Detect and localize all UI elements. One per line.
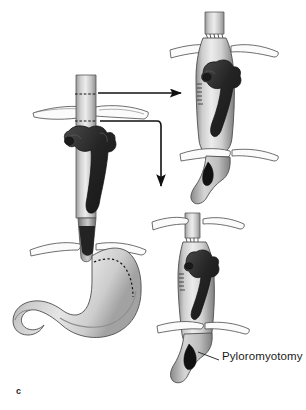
figure-background xyxy=(0,0,306,410)
vessel-stump-left xyxy=(64,137,73,145)
lower-esophageal-stump xyxy=(185,213,200,238)
pedicle-stump-lower xyxy=(185,263,193,270)
pyloromyotomy-label: Pyloromyotomy xyxy=(222,350,303,362)
upper-esophageal-stump xyxy=(205,12,224,34)
surgical-illustration-panel-c xyxy=(0,0,306,410)
pedicle-stump-upper xyxy=(203,73,211,80)
panel-letter: c xyxy=(16,386,21,396)
